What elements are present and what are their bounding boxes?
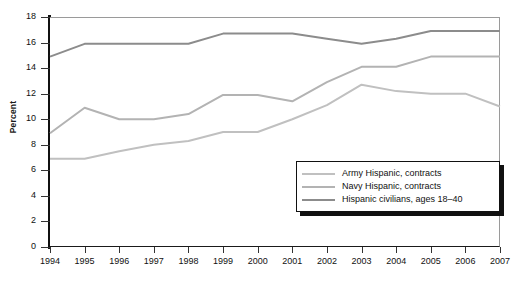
y-tick: [41, 221, 50, 222]
y-tick: [41, 145, 50, 146]
y-tick: [41, 17, 50, 18]
legend-item: Army Hispanic, contracts: [302, 167, 492, 180]
y-tick-label: 2: [10, 215, 36, 225]
y-tick-label: 10: [10, 113, 36, 123]
series-line: [50, 57, 500, 134]
x-tick: [362, 247, 363, 253]
x-tick: [396, 247, 397, 253]
y-tick-label: 14: [10, 62, 36, 72]
x-tick: [223, 247, 224, 253]
x-tick: [50, 247, 51, 253]
legend-label-army: Army Hispanic, contracts: [342, 167, 442, 180]
y-tick: [41, 170, 50, 171]
y-tick: [41, 94, 50, 95]
y-tick: [41, 196, 50, 197]
x-tick: [465, 247, 466, 253]
x-tick: [154, 247, 155, 253]
x-tick: [292, 247, 293, 253]
legend-item: Hispanic civilians, ages 18–40: [302, 193, 492, 206]
chart-figure: Percent 024681012141618 1994199519961997…: [0, 0, 530, 282]
legend-item: Navy Hispanic, contracts: [302, 180, 492, 193]
y-tick: [41, 247, 50, 248]
x-tick: [258, 247, 259, 253]
x-tick: [119, 247, 120, 253]
legend-swatch-navy: [302, 186, 335, 188]
legend-label-civilians: Hispanic civilians, ages 18–40: [342, 193, 463, 206]
y-tick: [41, 68, 50, 69]
x-tick: [500, 247, 501, 253]
x-tick-label: 2007: [480, 256, 520, 266]
x-tick: [431, 247, 432, 253]
x-tick: [327, 247, 328, 253]
y-tick-label: 0: [10, 241, 36, 251]
legend-label-navy: Navy Hispanic, contracts: [342, 180, 441, 193]
y-tick: [41, 119, 50, 120]
series-line: [50, 31, 500, 57]
y-tick-label: 4: [10, 190, 36, 200]
y-tick-label: 18: [10, 11, 36, 21]
x-tick: [188, 247, 189, 253]
y-tick: [41, 43, 50, 44]
legend: Army Hispanic, contracts Navy Hispanic, …: [296, 161, 500, 212]
y-tick-label: 6: [10, 164, 36, 174]
legend-swatch-army: [302, 173, 335, 175]
legend-swatch-civilians: [302, 199, 335, 201]
y-tick-label: 16: [10, 37, 36, 47]
series-lines: [50, 17, 500, 247]
y-tick-label: 8: [10, 139, 36, 149]
y-tick-label: 12: [10, 88, 36, 98]
x-tick: [85, 247, 86, 253]
series-line: [50, 85, 500, 159]
